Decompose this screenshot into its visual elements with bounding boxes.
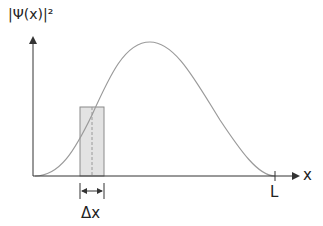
delta-x-label: Δx bbox=[81, 204, 100, 222]
probability-density-curve bbox=[35, 42, 275, 176]
l-label: L bbox=[270, 183, 278, 201]
y-axis-label: |Ψ(x)|² bbox=[8, 6, 53, 22]
x-axis-label: x bbox=[303, 166, 312, 184]
